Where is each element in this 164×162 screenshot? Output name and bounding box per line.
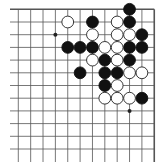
black-stone-icon bbox=[99, 80, 111, 92]
black-stone-icon bbox=[111, 67, 123, 79]
white-stone-icon bbox=[111, 42, 123, 54]
white-stone-icon bbox=[111, 54, 123, 66]
white-stone-icon bbox=[111, 92, 123, 104]
black-stone-icon bbox=[136, 92, 148, 104]
star-point-icon bbox=[53, 33, 57, 37]
black-stone-icon bbox=[62, 42, 74, 54]
go-board[interactable] bbox=[0, 0, 164, 162]
black-stone-icon bbox=[99, 67, 111, 79]
black-stone-icon bbox=[87, 42, 99, 54]
white-stone-icon bbox=[111, 80, 123, 92]
white-stone-icon bbox=[124, 92, 136, 104]
white-stone-icon bbox=[136, 67, 148, 79]
black-stone-icon bbox=[87, 16, 99, 28]
white-stone-icon bbox=[124, 29, 136, 41]
white-stone-icon bbox=[99, 42, 111, 54]
black-stone-icon bbox=[124, 16, 136, 28]
black-stone-icon bbox=[74, 67, 86, 79]
white-stone-icon bbox=[99, 92, 111, 104]
white-stone-icon bbox=[124, 67, 136, 79]
black-stone-icon bbox=[124, 42, 136, 54]
black-stone-icon bbox=[124, 3, 136, 15]
black-stone-icon bbox=[124, 54, 136, 66]
white-stone-icon bbox=[87, 29, 99, 41]
black-stone-icon bbox=[74, 42, 86, 54]
white-stone-icon bbox=[62, 16, 74, 28]
white-stone-icon bbox=[111, 29, 123, 41]
black-stone-icon bbox=[136, 42, 148, 54]
white-stone-icon bbox=[87, 54, 99, 66]
white-stone-icon bbox=[111, 16, 123, 28]
black-stone-icon bbox=[136, 29, 148, 41]
black-stone-icon bbox=[99, 54, 111, 66]
star-point-icon bbox=[128, 109, 132, 113]
